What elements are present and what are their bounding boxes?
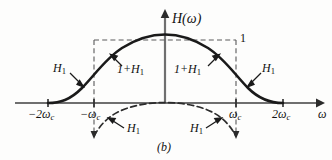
annotation-lower-right-main: H (190, 121, 199, 135)
tick-label-minus-2wc: −2ωc (28, 108, 54, 122)
annotation-lower-left: H1 (127, 122, 140, 136)
annotation-upper-right-inner-sub: 1 (197, 67, 201, 77)
annotation-upper-left-inner: 1+H1 (117, 63, 144, 77)
plot-canvas (0, 0, 332, 160)
guide-arrowheads (91, 131, 240, 139)
annotation-upper-left-inner-sub: 1 (140, 67, 144, 77)
annotation-lower-right-sub: 1 (199, 126, 203, 136)
annotation-lower-right: H1 (190, 122, 203, 136)
tick-label-2wc-main: 2ω (272, 107, 286, 121)
annotation-upper-left-inner-main: H (131, 62, 140, 76)
annotation-upper-right-inner: 1+H1 (174, 63, 201, 77)
tick-label-2wc-sub: c (286, 112, 290, 122)
figure-caption: (b) (157, 141, 171, 153)
annotation-upper-right-inner-main: H (188, 62, 197, 76)
annotation-upper-right-inner-prefix: 1+ (174, 62, 188, 76)
annotation-upper-right-outer-sub: 1 (271, 66, 275, 76)
annotation-upper-right-outer-main: H (262, 61, 271, 75)
figure-container: H(ω) ω 1 −2ωc −ωc ωc 2ωc H1 1+H1 1+H1 H1… (0, 0, 332, 160)
tick-label-minus-2wc-main: −2ω (28, 107, 51, 121)
annotation-upper-left-outer-main: H (53, 61, 62, 75)
cutoff-guide-lines (94, 103, 236, 137)
tick-label-minus-wc-sub: c (97, 112, 101, 122)
y-axis-arrowhead (161, 9, 170, 18)
tick-label-wc: ωc (229, 108, 241, 122)
x-axis-label: ω (318, 108, 326, 120)
annotation-upper-left-outer-sub: 1 (62, 66, 66, 76)
tick-label-minus-2wc-sub: c (51, 112, 55, 122)
level-one-label: 1 (240, 32, 246, 44)
tick-label-wc-sub: c (237, 112, 241, 122)
y-axis (161, 9, 170, 103)
annotation-lower-left-sub: 1 (136, 126, 140, 136)
tick-label-minus-wc-main: −ω (80, 107, 97, 121)
tick-label-2wc: 2ωc (272, 108, 290, 122)
annotation-upper-right-outer: H1 (262, 62, 275, 76)
annotation-upper-left-outer: H1 (53, 62, 66, 76)
annotation-upper-left-inner-prefix: 1+ (117, 62, 131, 76)
annotation-lower-left-main: H (127, 121, 136, 135)
y-axis-label: H(ω) (172, 12, 201, 26)
tick-label-minus-wc: −ωc (80, 108, 100, 122)
